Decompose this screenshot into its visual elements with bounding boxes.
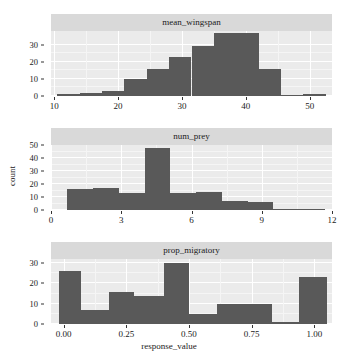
gridline-major-vertical <box>118 31 119 96</box>
histogram-bar <box>189 314 217 324</box>
gridline-minor-horizontal <box>51 293 332 294</box>
histogram-bar <box>67 189 93 210</box>
histogram-bar <box>109 292 134 325</box>
facet-title-num-prey: num_prey <box>173 132 210 141</box>
y-tick-mark <box>41 210 44 211</box>
y-tick-label: 20 <box>30 278 39 288</box>
x-tick-mark <box>314 325 315 328</box>
gridline-major-horizontal <box>51 262 332 263</box>
histogram-bar <box>170 193 196 210</box>
x-axis-num-prey: 036912 <box>51 210 332 230</box>
facet-prop-migratory: prop_migratory 0102030 0.000.250.500.751… <box>0 242 338 342</box>
y-axis-ticks-mean-wingspan: 0102030 <box>14 31 44 96</box>
y-tick-label: 10 <box>30 299 39 309</box>
y-tick-mark <box>41 324 44 325</box>
gridline-minor-vertical <box>283 259 284 324</box>
y-tick-mark <box>41 61 44 62</box>
x-tick-mark <box>182 97 183 100</box>
x-tick-label: 1.00 <box>307 329 323 339</box>
histogram-bar <box>259 69 281 96</box>
histogram-bar <box>236 33 258 96</box>
x-tick-label: 0.00 <box>56 329 72 339</box>
plot-panel-prop-migratory <box>51 259 332 324</box>
y-tick-mark <box>41 158 44 159</box>
plot-panel-mean-wingspan <box>51 31 332 96</box>
histogram-bar <box>134 296 164 324</box>
y-tick-mark <box>41 283 44 284</box>
y-tick-label: 10 <box>30 74 39 84</box>
x-tick-label: 40 <box>241 101 250 111</box>
x-tick-mark <box>64 325 65 328</box>
facet-strip-prop-migratory: prop_migratory <box>51 242 332 259</box>
histogram-bar <box>192 46 214 96</box>
x-axis-mean-wingspan: 1020304050 <box>51 96 332 116</box>
y-tick-mark <box>41 44 44 45</box>
y-tick-mark <box>41 197 44 198</box>
x-tick-label: 6 <box>189 215 194 225</box>
histogram-bar <box>59 271 82 324</box>
facet-strip-num-prey: num_prey <box>51 128 332 145</box>
y-tick-label: 0 <box>34 91 38 101</box>
histogram-bar <box>124 79 146 96</box>
x-tick-label: 3 <box>119 215 124 225</box>
histogram-bar <box>119 193 145 210</box>
x-tick-label: 30 <box>177 101 186 111</box>
facet-title-mean-wingspan: mean_wingspan <box>162 18 221 27</box>
y-tick-label: 40 <box>30 153 39 163</box>
x-tick-mark <box>310 97 311 100</box>
gridline-minor-vertical <box>86 31 87 96</box>
y-tick-label: 20 <box>30 57 39 67</box>
y-axis-ticks-prop-migratory: 0102030 <box>14 259 44 324</box>
histogram-bar <box>214 33 236 96</box>
histogram-bar <box>93 188 119 210</box>
y-tick-mark <box>41 263 44 264</box>
x-tick-mark <box>54 97 55 100</box>
histogram-bar <box>81 310 109 324</box>
x-tick-mark <box>252 325 253 328</box>
y-tick-label: 50 <box>30 140 39 150</box>
facet-strip-mean-wingspan: mean_wingspan <box>51 14 332 31</box>
y-tick-mark <box>41 303 44 304</box>
y-tick-mark <box>41 78 44 79</box>
facet-mean-wingspan: mean_wingspan 0102030 1020304050 <box>0 14 338 114</box>
x-tick-mark <box>126 325 127 328</box>
gridline-major-vertical <box>310 31 311 96</box>
facet-title-prop-migratory: prop_migratory <box>163 246 220 255</box>
histogram-bar <box>248 202 274 210</box>
x-tick-label: 10 <box>50 101 59 111</box>
x-tick-label: 0.50 <box>181 329 197 339</box>
y-tick-label: 30 <box>30 166 39 176</box>
histogram-bar <box>299 277 327 324</box>
x-tick-label: 50 <box>305 101 314 111</box>
x-tick-mark <box>332 211 333 214</box>
histogram-bar <box>147 69 169 96</box>
plot-panel-num-prey <box>51 145 332 210</box>
x-tick-label: 0.75 <box>244 329 260 339</box>
y-tick-label: 30 <box>30 258 39 268</box>
x-tick-mark <box>262 211 263 214</box>
y-tick-label: 0 <box>34 205 38 215</box>
y-tick-label: 30 <box>30 40 39 50</box>
x-tick-mark <box>121 211 122 214</box>
gridline-major-horizontal <box>51 303 332 304</box>
gridline-minor-horizontal <box>51 272 332 273</box>
y-tick-label: 20 <box>30 179 39 189</box>
x-tick-mark <box>189 325 190 328</box>
x-tick-mark <box>192 211 193 214</box>
facet-num-prey: num_prey 01020304050 036912 <box>0 128 338 228</box>
gridline-minor-vertical <box>297 145 298 210</box>
gridline-major-horizontal <box>51 282 332 283</box>
y-tick-label: 0 <box>34 319 38 329</box>
histogram-bar <box>169 57 191 96</box>
x-axis-label: response_value <box>0 341 338 351</box>
x-tick-label: 9 <box>260 215 265 225</box>
y-tick-mark <box>41 96 44 97</box>
y-tick-mark <box>41 184 44 185</box>
histogram-bar <box>145 148 171 210</box>
x-tick-label: 20 <box>114 101 123 111</box>
x-tick-label: 0.25 <box>118 329 134 339</box>
histogram-bar <box>217 304 245 324</box>
histogram-bar <box>164 263 189 324</box>
gridline-major-vertical <box>54 31 55 96</box>
y-tick-label: 10 <box>30 192 39 202</box>
